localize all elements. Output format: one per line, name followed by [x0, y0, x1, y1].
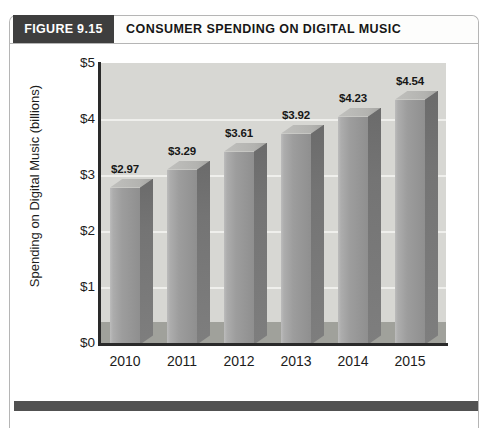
x-tick-label-2010: 2010 — [98, 352, 152, 370]
y-axis-line — [98, 62, 101, 345]
x-tick-label-2013: 2013 — [269, 352, 323, 370]
bar-face-side — [254, 143, 267, 345]
x-tick-label-2012: 2012 — [212, 352, 266, 370]
bar-face-front — [224, 152, 254, 345]
bar-value-label-2014: $4.23 — [329, 92, 377, 104]
bar-value-label-2015: $4.54 — [386, 75, 434, 87]
bar-face-side — [197, 161, 210, 345]
x-tick-label-2014: 2014 — [326, 352, 380, 370]
bar-value-label-2011: $3.29 — [158, 145, 206, 157]
figure-bottom-rule — [14, 401, 478, 411]
bar-2012 — [224, 143, 267, 345]
bar-face-side — [368, 108, 381, 345]
bar-face-front — [110, 188, 140, 345]
bar-face-front — [281, 134, 311, 345]
bar-2014 — [338, 108, 381, 345]
bar-value-label-2010: $2.97 — [101, 163, 149, 175]
bar-2015 — [395, 91, 438, 345]
bar-value-label-2012: $3.61 — [215, 127, 263, 139]
x-tick-label-2011: 2011 — [155, 352, 209, 370]
bar-face-front — [395, 100, 425, 345]
y-tick-label-3: $3 — [50, 166, 95, 184]
x-tick-label-2015: 2015 — [383, 352, 437, 370]
x-axis-line — [98, 343, 448, 346]
bar-2013 — [281, 125, 324, 345]
y-axis-title: Spending on Digital Music (billions) — [27, 36, 45, 336]
y-tick-label-4: $4 — [50, 110, 95, 128]
figure-canvas: FIGURE 9.15 CONSUMER SPENDING ON DIGITAL… — [0, 0, 492, 428]
y-tick-label-5: $5 — [50, 54, 95, 72]
bar-face-side — [425, 91, 438, 345]
y-tick-label-0: $0 — [50, 334, 95, 352]
bar-2010 — [110, 179, 153, 345]
bar-face-side — [311, 125, 324, 345]
bar-2011 — [167, 161, 210, 345]
bar-face-front — [167, 170, 197, 345]
y-tick-label-2: $2 — [50, 222, 95, 240]
bar-face-front — [338, 117, 368, 345]
bar-chart: Spending on Digital Music (billions) $0 … — [0, 0, 492, 428]
bar-value-label-2013: $3.92 — [272, 109, 320, 121]
bar-face-side — [140, 179, 153, 345]
y-tick-label-1: $1 — [50, 278, 95, 296]
